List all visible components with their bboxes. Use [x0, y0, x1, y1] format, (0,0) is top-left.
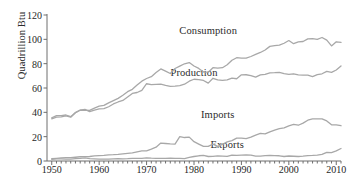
axes [44, 14, 342, 165]
series-line-consumption [52, 38, 341, 119]
series-line-imports [52, 119, 341, 159]
plot-canvas [0, 0, 350, 184]
series-line-exports [52, 148, 341, 159]
energy-chart: Quadrillion Btu 020406080100120 19501960… [0, 0, 350, 184]
data-lines [52, 38, 341, 160]
series-line-production [52, 66, 341, 118]
